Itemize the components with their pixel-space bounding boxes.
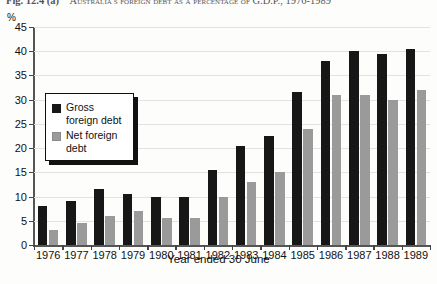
bar-net-1984 <box>275 172 285 245</box>
bar-gross-1982 <box>208 170 218 245</box>
y-axis-tick <box>29 27 34 28</box>
legend-label-net: Net foreign debt <box>66 129 117 154</box>
bar-gross-1976 <box>38 206 48 245</box>
legend-label-gross: Gross foreign debt <box>66 101 121 126</box>
grid-line <box>34 27 430 28</box>
bar-gross-1986 <box>321 61 331 245</box>
bar-gross-1983 <box>236 146 246 245</box>
bar-gross-1979 <box>123 194 133 245</box>
y-axis-tick <box>29 124 34 125</box>
y-axis-tick-label: 30 <box>15 94 27 106</box>
grid-line <box>34 51 430 52</box>
grid-line <box>34 197 430 198</box>
y-axis-tick <box>29 51 34 52</box>
bar-gross-1980 <box>151 197 161 245</box>
bar-gross-1977 <box>66 201 76 245</box>
figure-title: Fig. 12.4 (a) Australia's foreign debt a… <box>6 0 436 6</box>
legend-entry-gross: Gross foreign debt <box>52 101 121 126</box>
figure-chart: Fig. 12.4 (a) Australia's foreign debt a… <box>0 0 437 284</box>
bar-net-1983 <box>247 182 257 245</box>
bar-net-1982 <box>219 197 229 245</box>
bar-net-1987 <box>360 95 370 245</box>
bar-net-1981 <box>190 218 200 245</box>
x-axis-tick <box>430 245 431 250</box>
y-axis-tick <box>29 221 34 222</box>
figure-title-text: Australia's foreign debt as a percentage… <box>70 0 331 6</box>
y-axis-tick-label: 0 <box>21 239 27 251</box>
y-axis-tick <box>29 148 34 149</box>
y-axis-tick <box>29 75 34 76</box>
legend-swatch-gross-icon <box>52 104 61 113</box>
y-axis-line <box>33 27 35 245</box>
bar-net-1988 <box>388 100 398 245</box>
bar-net-1976 <box>49 230 59 245</box>
y-axis-tick-label: 45 <box>15 21 27 33</box>
y-axis-tick-label: 35 <box>15 69 27 81</box>
bar-net-1986 <box>332 95 342 245</box>
grid-line <box>34 172 430 173</box>
grid-line <box>34 221 430 222</box>
y-axis-tick-label: 10 <box>15 191 27 203</box>
y-axis-tick-label: 5 <box>21 215 27 227</box>
bar-net-1979 <box>134 211 144 245</box>
bar-net-1978 <box>105 216 115 245</box>
x-axis-title: Year ended 30 June <box>0 253 437 265</box>
bar-gross-1978 <box>94 189 104 245</box>
y-axis-tick-label: 15 <box>15 166 27 178</box>
bar-gross-1987 <box>349 51 359 245</box>
bar-gross-1981 <box>179 197 189 245</box>
y-axis-tick-label: 25 <box>15 118 27 130</box>
y-axis-tick-label: 40 <box>15 45 27 57</box>
chart-legend: Gross foreign debt Net foreign debt <box>45 93 134 161</box>
y-axis-tick <box>29 197 34 198</box>
legend-swatch-net-icon <box>52 132 61 141</box>
figure-number: Fig. 12.4 (a) <box>6 0 59 6</box>
y-axis-tick <box>29 100 34 101</box>
bar-gross-1984 <box>264 136 274 245</box>
bar-gross-1988 <box>377 54 387 245</box>
bar-gross-1989 <box>406 49 416 245</box>
bar-net-1985 <box>303 129 313 245</box>
y-axis-tick <box>29 172 34 173</box>
grid-line <box>34 75 430 76</box>
bar-net-1989 <box>417 90 427 245</box>
y-axis-tick-label: 20 <box>15 142 27 154</box>
legend-entry-net: Net foreign debt <box>52 129 117 154</box>
bar-net-1980 <box>162 218 172 245</box>
bar-net-1977 <box>77 223 87 245</box>
bar-gross-1985 <box>292 92 302 245</box>
